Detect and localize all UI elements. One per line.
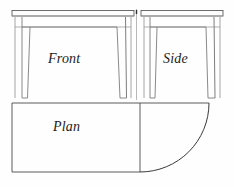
view-label-front: Front	[48, 52, 80, 66]
side-left-leg-outer-edge	[155, 27, 157, 98]
plan-rectangle-outline	[12, 103, 140, 172]
plan-view-group	[12, 103, 209, 172]
front-table-top	[12, 11, 134, 17]
front-right-leg-outer-edge	[126, 17, 127, 98]
front-left-leg	[22, 17, 30, 98]
view-label-side: Side	[163, 52, 188, 66]
side-top-slab-outline	[141, 11, 223, 17]
side-left-leg	[150, 17, 157, 98]
front-right-leg	[117, 17, 127, 98]
technical-drawing-canvas	[0, 0, 234, 187]
view-label-plan: Plan	[53, 120, 80, 134]
plan-quarter-round-arc	[140, 103, 209, 172]
front-left-leg-outer-edge	[28, 27, 31, 98]
front-top-slab-outline	[12, 11, 134, 17]
side-right-leg-inner-edge	[206, 27, 208, 98]
drawing-sheet: Front Side Plan	[0, 0, 234, 187]
front-right-leg-inner-edge	[117, 27, 120, 98]
side-right-leg-outer-edge	[214, 17, 215, 98]
side-table-top	[141, 11, 223, 17]
side-right-leg	[206, 17, 215, 98]
